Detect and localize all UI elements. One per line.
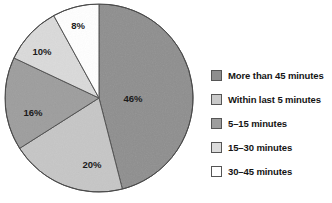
legend-item-label: 5–15 minutes <box>228 118 287 129</box>
legend-item[interactable]: 30–45 minutes <box>211 164 332 178</box>
legend-item[interactable]: Within last 5 minutes <box>211 92 332 106</box>
pie-slice-value-label: 10% <box>32 46 52 57</box>
legend-item-label: 15–30 minutes <box>228 142 292 153</box>
pie-chart-svg: 46%20%16%10%8% <box>0 0 200 203</box>
legend-item[interactable]: 15–30 minutes <box>211 140 332 154</box>
pie-slice-value-label: 20% <box>82 159 102 170</box>
legend-item[interactable]: More than 45 minutes <box>211 68 332 82</box>
pie-slice-value-label: 46% <box>123 93 143 104</box>
legend-swatch-icon <box>211 94 222 105</box>
legend-item[interactable]: 5–15 minutes <box>211 116 332 130</box>
legend-swatch-icon <box>211 142 222 153</box>
legend-item-label: 30–45 minutes <box>228 166 292 177</box>
pie-chart-figure: 46%20%16%10%8% More than 45 minutes With… <box>0 0 332 203</box>
pie-slice-value-label: 8% <box>71 20 85 31</box>
legend-swatch-icon <box>211 118 222 129</box>
pie-chart-plot-area: 46%20%16%10%8% <box>0 0 200 203</box>
legend-swatch-icon <box>211 70 222 81</box>
legend-swatch-icon <box>211 166 222 177</box>
legend-item-label: Within last 5 minutes <box>228 94 321 105</box>
legend-item-label: More than 45 minutes <box>228 70 324 81</box>
chart-legend: More than 45 minutes Within last 5 minut… <box>211 68 332 178</box>
pie-slice-value-label: 16% <box>23 107 43 118</box>
